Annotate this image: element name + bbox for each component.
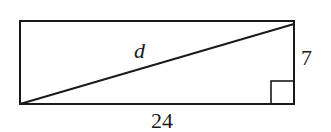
width-label: 24 (151, 110, 173, 132)
diagonal-label: d (134, 40, 145, 62)
right-angle-marker (271, 81, 294, 104)
height-label: 7 (301, 47, 312, 69)
diagonal-line (20, 24, 294, 104)
